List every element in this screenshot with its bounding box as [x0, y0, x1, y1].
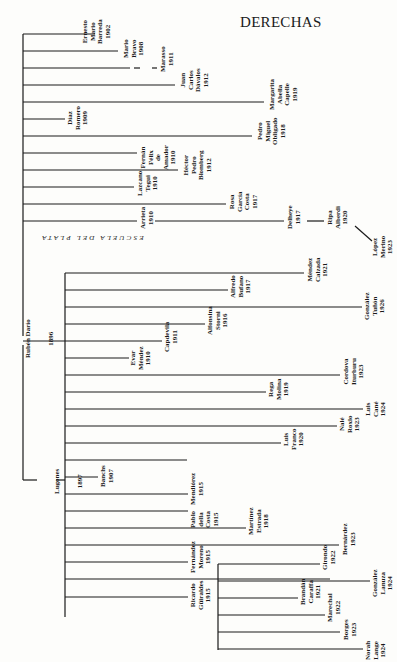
- node-banchs: Banchs1907: [100, 465, 115, 487]
- node-alberdi: RipaAlberdi1920: [327, 206, 350, 229]
- node-molina: RegaMolina1919: [268, 379, 291, 400]
- node-costa: RosaGarcíaCosta1917: [229, 192, 259, 212]
- node-year: 1917: [245, 275, 253, 298]
- node-estrada: MartínezEstrada1918: [248, 507, 271, 535]
- node-marechal: Marechal1922: [327, 593, 342, 622]
- node-carafia: BrandánCaraffa1921: [300, 579, 323, 605]
- node-year: 1908: [138, 39, 146, 58]
- node-merino: LópezMerino1923: [372, 236, 395, 258]
- node-mendez: EvarMéndez1910: [130, 346, 153, 370]
- node-delfino: Delheye1917: [287, 205, 302, 229]
- node-amador: FernánFélixdeAmador1910: [140, 145, 178, 170]
- node-year: 1907: [108, 465, 116, 487]
- node-year: 1912: [206, 150, 214, 180]
- node-mendiorez: Mendiórez1915: [190, 473, 205, 505]
- node-year: 1911: [172, 322, 180, 352]
- node-year: 1922: [335, 593, 343, 622]
- node-lanuza: GonzálezLanuza1924: [372, 569, 395, 597]
- node-cane: LuisCané1924: [365, 401, 388, 417]
- node-year: 1915: [198, 473, 206, 505]
- node-year: 1924: [380, 401, 388, 417]
- node-lange: NorahLange1924: [365, 641, 388, 660]
- node-year: 1920: [298, 429, 306, 450]
- node-bernardez: Bernárdez1923: [342, 524, 357, 556]
- node-barreda: ErnestoMarioBarreda1902: [82, 19, 112, 44]
- node-year: 1919: [292, 79, 300, 110]
- node-year: 1910: [148, 207, 156, 229]
- node-davalos: JuanCarlosDávalos1912: [180, 68, 210, 92]
- node-marasso: Marasso1911: [160, 46, 175, 72]
- node-year: 1922: [330, 545, 338, 570]
- node-moreno: FernándezMoreno1915: [190, 541, 213, 573]
- node-year: 1921: [315, 579, 323, 605]
- node-year: 1923: [358, 358, 366, 385]
- node-year: 1924: [387, 569, 395, 597]
- node-name: Lugones: [54, 469, 62, 494]
- node-ibarbourou: CordovaIturburu1923: [343, 358, 366, 385]
- node-year: 1912: [203, 68, 211, 92]
- node-year: 1917: [295, 205, 303, 229]
- node-year: 1918: [280, 117, 288, 145]
- node-year: 1920: [342, 206, 350, 229]
- node-tunon: GonzálezTuñón1926: [364, 292, 387, 320]
- node-year: 1910: [145, 346, 153, 370]
- node-tegui: LazcanoTegui1910: [137, 171, 160, 196]
- node-year: 1911: [168, 46, 176, 72]
- node-year: 1924: [380, 641, 388, 660]
- node-romero: DíazRomero1909: [67, 106, 90, 130]
- node-year: 1916: [222, 306, 230, 335]
- node-girondo: Girondo1922: [322, 545, 337, 570]
- node-year: 1918: [263, 507, 271, 535]
- node-name: Rubén Darío: [25, 319, 33, 358]
- node-bravo: MarioBravo1908: [123, 39, 146, 58]
- node-year: 1902: [105, 19, 113, 44]
- node-capelle: MargaritaAbellaCapelle1919: [269, 79, 299, 110]
- node-year: 1909: [82, 106, 90, 130]
- node-dellacosta: PablodellaCosta1915: [190, 511, 220, 528]
- node-calzada: MéndezCalzada1921: [307, 258, 330, 283]
- node-ruben-dario: Rubén Darío 1896: [10, 319, 63, 358]
- node-arrieta: Arrieta1910: [140, 207, 155, 229]
- node-year: 1921: [322, 258, 330, 283]
- node-storni: AlfonsinaStorni1916: [207, 306, 230, 335]
- node-borges: Borges1923: [343, 619, 358, 640]
- node-franco: LuisFranco1920: [283, 429, 306, 450]
- node-year: 1897: [77, 469, 85, 494]
- node-rosso: NaléRoxlo1923: [339, 416, 362, 434]
- node-obligado: PedroMiguelObligado1918: [257, 117, 287, 145]
- node-year: 1923: [351, 619, 359, 640]
- node-year: 1896: [48, 319, 56, 358]
- node-lugones: Lugones 1897: [39, 469, 92, 494]
- node-year: 1910: [170, 145, 178, 170]
- node-giraldes: RicardoGüiraldes1915: [190, 580, 213, 610]
- school-label: ESCUELA DEL PLATA: [40, 234, 144, 242]
- node-year: 1910: [152, 171, 160, 196]
- node-year: 1915: [213, 511, 221, 528]
- node-year: 1917: [252, 192, 260, 212]
- node-year: 1923: [354, 416, 362, 434]
- node-capdevila: Capdevila1911: [164, 322, 179, 352]
- node-year: 1919: [283, 379, 291, 400]
- node-year: 1915: [205, 580, 213, 610]
- node-blomberg: HéctorPedroBlomberg1912: [183, 150, 213, 180]
- node-year: 1926: [379, 292, 387, 320]
- node-bufano: AlfredoBufano1917: [230, 275, 253, 298]
- node-year: 1923: [387, 236, 395, 258]
- node-year: 1923: [350, 524, 358, 556]
- node-year: 1915: [205, 541, 213, 573]
